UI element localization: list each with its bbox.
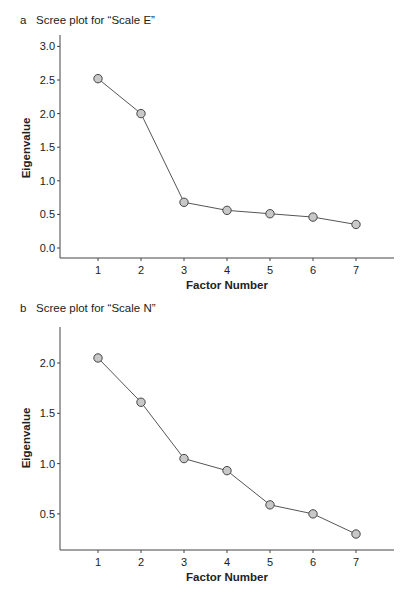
- panel-a-data-point: [309, 213, 317, 221]
- scree-plots: 0.00.51.01.52.02.53.01234567Factor Numbe…: [0, 0, 409, 599]
- panel-a-y-axis-title: Eigenvalue: [20, 118, 32, 179]
- panel-b-x-tick-label: 7: [353, 556, 359, 568]
- panel-b-data-point: [223, 466, 231, 474]
- panel-b-x-tick-label: 2: [138, 556, 144, 568]
- panel-a-data-point: [94, 74, 102, 82]
- panel-b-data-point: [352, 530, 360, 538]
- panel-b-x-tick-label: 3: [181, 556, 187, 568]
- panel-b-data-point: [309, 510, 317, 518]
- panel-a-x-tick-label: 1: [95, 264, 101, 276]
- panel-a-x-tick-label: 6: [310, 264, 316, 276]
- panel-a-x-tick-label: 4: [224, 264, 230, 276]
- panel-a-x-tick-label: 7: [353, 264, 359, 276]
- panel-b-y-tick-label: 1.0: [40, 458, 55, 470]
- panel-b-data-point: [137, 398, 145, 406]
- panel-a-y-tick-label: 2.5: [40, 74, 55, 86]
- panel-b-x-tick-label: 6: [310, 556, 316, 568]
- panel-a-x-tick-label: 5: [267, 264, 273, 276]
- panel-b-data-point: [266, 501, 274, 509]
- panel-b-x-tick-label: 1: [95, 556, 101, 568]
- panel-b-y-axis-title: Eigenvalue: [20, 408, 32, 469]
- panel-a-data-point: [266, 210, 274, 218]
- panel-a-x-tick-label: 2: [138, 264, 144, 276]
- panel-a-y-tick-label: 0.5: [40, 208, 55, 220]
- panel-a-y-tick-label: 1.0: [40, 175, 55, 187]
- panel-b-series-line: [98, 358, 356, 534]
- panel-a-series-line: [98, 79, 356, 225]
- panel-a-data-point: [223, 206, 231, 214]
- panel-b-y-tick-label: 0.5: [40, 508, 55, 520]
- panel-b-x-axis-title: Factor Number: [186, 571, 268, 583]
- panel-b-x-tick-label: 5: [267, 556, 273, 568]
- panel-b-y-tick-label: 2.0: [40, 357, 55, 369]
- panel-b-data-point: [180, 454, 188, 462]
- panel-b-y-tick-label: 1.5: [40, 407, 55, 419]
- panel-a-x-tick-label: 3: [181, 264, 187, 276]
- panel-a-y-tick-label: 2.0: [40, 108, 55, 120]
- panel-b-x-tick-label: 4: [224, 556, 230, 568]
- panel-b-data-point: [94, 354, 102, 362]
- panel-a-data-point: [180, 198, 188, 206]
- panel-a-data-point: [137, 109, 145, 117]
- panel-a-y-tick-label: 0.0: [40, 242, 55, 254]
- panel-a-y-tick-label: 1.5: [40, 141, 55, 153]
- panel-a-data-point: [352, 220, 360, 228]
- panel-a-y-tick-label: 3.0: [40, 40, 55, 52]
- panel-a-x-axis-title: Factor Number: [186, 279, 268, 291]
